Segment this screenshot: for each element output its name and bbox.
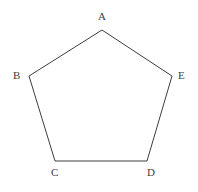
vertex-label-e: E [178,70,185,81]
vertex-label-c: C [51,167,58,178]
figure-canvas: A B C D E [0,0,198,192]
vertex-label-d: D [147,167,155,178]
vertex-label-a: A [98,11,106,22]
vertex-label-b: B [13,70,20,81]
pentagon-diagram [0,0,198,192]
pentagon-outline [29,30,172,161]
